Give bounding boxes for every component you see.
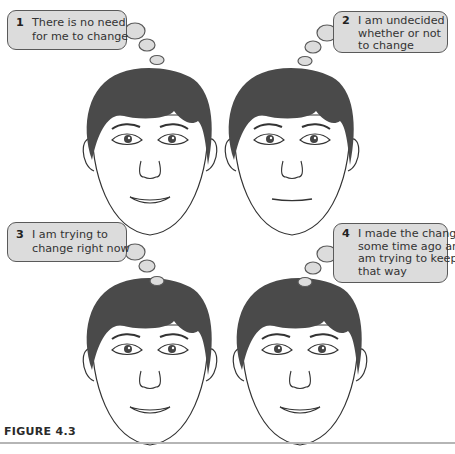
figure-caption: FIGURE 4.3 [4, 425, 76, 438]
bubble-text-line: I am undecided [358, 15, 439, 28]
bubble-text-line: I made the change [358, 228, 439, 241]
caption-divider [0, 442, 455, 444]
face-4 [233, 278, 367, 445]
bubble-text-line: for me to change [32, 30, 118, 44]
thought-bubble-3: 3 I am trying to change right now [7, 222, 127, 262]
thought-bubble-4: 4 I made the change some time ago and am… [333, 223, 448, 283]
stage-number: 1 [16, 16, 24, 30]
bubble-text-line: to change [358, 40, 439, 53]
stage-number: 2 [342, 15, 350, 28]
bubble-text-line: There is no need [32, 16, 118, 30]
bubble-text-line: I am trying to [32, 228, 118, 242]
stage-number: 4 [342, 228, 350, 241]
bubble-text-line: am trying to keep it [358, 253, 439, 266]
thought-bubble-1: 1 There is no need for me to change [7, 10, 127, 50]
bubble-text-line: change right now [32, 242, 118, 256]
face-1 [83, 68, 217, 235]
stage-number: 3 [16, 228, 24, 242]
bubble-text-line: that way [358, 266, 439, 279]
face-3 [83, 278, 217, 445]
face-2 [225, 68, 359, 235]
thought-bubble-2: 2 I am undecided whether or not to chang… [333, 11, 448, 53]
